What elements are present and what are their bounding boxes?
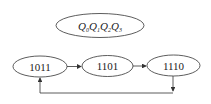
svg-text:1110: 1110 bbox=[163, 60, 185, 72]
state-node-1110: 1110 bbox=[147, 55, 200, 76]
svg-text:1101: 1101 bbox=[97, 60, 119, 72]
state-node-1011: 1011 bbox=[13, 56, 67, 77]
svg-text:Q0Q1Q2Q3: Q0Q1Q2Q3 bbox=[78, 20, 122, 33]
state-node-1101: 1101 bbox=[82, 56, 133, 77]
state-variable-header: Q0Q1Q2Q3 bbox=[56, 14, 144, 38]
state-diagram: Q0Q1Q2Q3 1011 1101 1110 bbox=[0, 0, 211, 104]
svg-text:1011: 1011 bbox=[29, 61, 51, 73]
feedback-arrow-1110-to-1011 bbox=[40, 78, 173, 93]
